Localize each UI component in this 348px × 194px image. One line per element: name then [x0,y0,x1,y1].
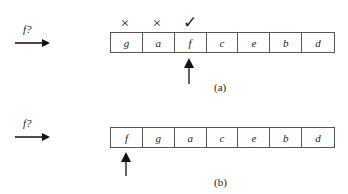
cross-mark-icon: × [147,16,167,31]
query-label-b: f? [23,117,32,129]
array-cell: a [143,33,175,52]
array-cell: d [302,33,334,52]
query-label-a: f? [23,23,32,35]
caption-b: (b) [214,176,227,188]
array-row-a: g a f c e b d [110,32,335,53]
array-cell: c [207,128,239,147]
check-mark-icon: ✓ [180,14,200,31]
array-cell: b [270,33,302,52]
array-cell: a [175,128,207,147]
array-cell: f [175,33,207,52]
array-cell: g [143,128,175,147]
caption-a: (a) [214,81,226,93]
array-cell: g [111,33,143,52]
array-cell: c [207,33,239,52]
array-cell: e [238,128,270,147]
cross-mark-icon: × [115,16,135,31]
array-cell: e [238,33,270,52]
array-cell: f [111,128,143,147]
array-row-b: f g a c e b d [110,127,335,148]
array-cell: d [302,128,334,147]
array-cell: b [270,128,302,147]
arrows-layer [0,0,348,194]
